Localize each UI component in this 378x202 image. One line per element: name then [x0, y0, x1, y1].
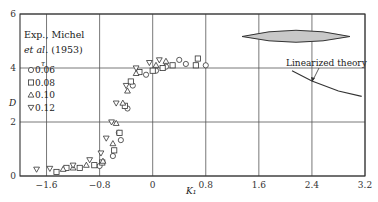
data-point-circle: [118, 137, 123, 142]
x-tick-label: 0.8: [199, 180, 214, 190]
data-point-circle: [203, 63, 208, 68]
legend-title-line2: et al. (1953): [24, 44, 83, 55]
airfoil-icon: [242, 30, 350, 42]
data-point-triangle-up: [120, 100, 126, 105]
y-tick-label: 6: [10, 9, 16, 19]
data-point-square: [77, 165, 82, 170]
data-point-triangle-down: [98, 151, 104, 156]
data-point-square: [117, 130, 122, 135]
legend-marker-circle: [28, 67, 33, 72]
x-axis-label: K₁: [185, 186, 196, 196]
data-point-circle: [183, 61, 188, 66]
data-point-triangle-down: [87, 158, 93, 163]
legend-label: 0.06: [35, 65, 55, 75]
x-tick-label: −0.8: [89, 180, 111, 190]
legend-label: 0.08: [35, 78, 55, 88]
data-point-triangle-up: [163, 58, 169, 63]
data-point-square: [92, 163, 97, 168]
data-point-triangle-up: [83, 162, 89, 167]
data-point-triangle-down: [47, 166, 53, 171]
legend-label: 0.10: [35, 90, 55, 100]
data-point-square: [150, 68, 155, 73]
data-point-triangle-up: [125, 88, 131, 93]
legend-title-line1: Exp., Michel: [24, 29, 84, 40]
legend-entries: 0.060.080.100.12: [28, 65, 55, 113]
legend-marker-triangle-down: [28, 105, 34, 110]
linearized-theory-label: Linearized theory: [286, 58, 368, 68]
data-point-circle: [177, 57, 182, 62]
legend-marker-triangle-up: [28, 92, 34, 97]
data-point-triangle-down: [156, 58, 162, 63]
legend-label: 0.12: [35, 103, 55, 113]
data-point-triangle-down: [70, 163, 76, 168]
data-point-circle: [110, 153, 115, 158]
chart: −1.6−0.800.81.62.43.2 0246 Exp., Michel …: [0, 0, 378, 202]
y-tick-label: 0: [10, 171, 16, 181]
data-point-circle: [143, 72, 148, 77]
data-point-square: [112, 148, 117, 153]
x-tick-label: 1.6: [252, 180, 267, 190]
legend-marker-square: [28, 80, 33, 85]
data-point-triangle-down: [103, 136, 109, 141]
y-tick-label: 4: [10, 63, 16, 73]
data-point-square: [170, 63, 175, 68]
linearized-theory-curve: [292, 71, 362, 97]
data-point-triangle-down: [34, 167, 40, 172]
data-point-triangle-down: [113, 101, 119, 106]
data-point-triangle-down: [123, 83, 129, 88]
x-tick-label: 3.2: [358, 180, 372, 190]
data-point-square: [195, 56, 200, 61]
data-point-triangle-up: [110, 141, 116, 146]
data-point-square: [193, 63, 198, 68]
data-point-square: [54, 169, 59, 174]
y-tick-labels: 0246: [10, 9, 16, 181]
x-tick-label: −1.6: [36, 180, 58, 190]
x-tick-labels: −1.6−0.800.81.62.43.2: [36, 180, 373, 190]
x-tick-label: 0: [150, 180, 156, 190]
data-points: [34, 56, 209, 175]
y-axis-label: D: [8, 98, 16, 108]
data-point-triangle-down: [146, 61, 152, 66]
legend-title-year: (1953): [48, 44, 83, 55]
y-tick-label: 2: [10, 117, 16, 127]
x-tick-label: 2.4: [305, 180, 320, 190]
data-point-triangle-up: [153, 62, 159, 67]
legend: Exp., Michel et al. (1953) τ 0.060.080.1…: [24, 29, 84, 113]
theory-line: [292, 71, 362, 97]
legend-title-etal: et al.: [24, 44, 48, 55]
data-point-square: [160, 65, 165, 70]
